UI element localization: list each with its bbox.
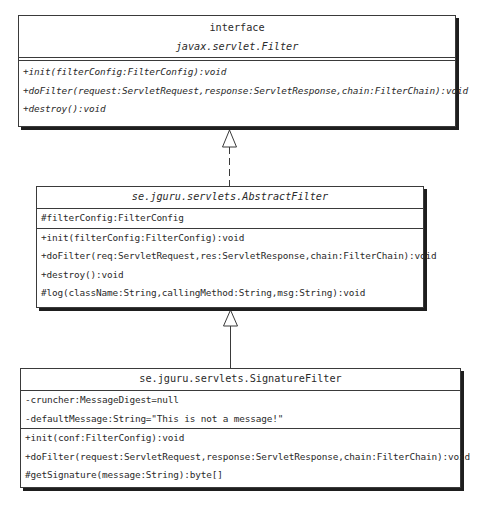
class-header: interface javax.servlet.Filter <box>19 16 455 57</box>
attribute-row: #filterConfig:FilterConfig <box>37 209 423 228</box>
method-row: +init(filterConfig:FilterConfig):void <box>37 229 423 248</box>
attribute-row: -defaultMessage:String="This is not a me… <box>21 410 460 429</box>
method-row: +init(conf:FilterConfig):void <box>21 429 460 448</box>
class-box-filter-interface: interface javax.servlet.Filter +init(fil… <box>18 15 456 127</box>
stereotype-label: interface <box>19 18 455 37</box>
generalization-arrow <box>224 310 238 368</box>
class-name: javax.servlet.Filter <box>19 37 455 56</box>
method-row: #log(className:String,callingMethod:Stri… <box>37 284 423 303</box>
class-name: se.jguru.servlets.AbstractFilter <box>37 187 423 206</box>
methods-compartment: +init(filterConfig:FilterConfig):void +d… <box>37 228 423 303</box>
method-row: +doFilter(req:ServletRequest,res:Servlet… <box>37 247 423 266</box>
realization-arrow <box>223 130 237 186</box>
class-name: se.jguru.servlets.SignatureFilter <box>21 369 460 388</box>
method-row: +doFilter(request:ServletRequest,respons… <box>19 82 455 101</box>
class-header: se.jguru.servlets.SignatureFilter <box>21 369 460 390</box>
methods-compartment: +init(filterConfig:FilterConfig):void +d… <box>19 57 455 119</box>
method-row: +doFilter(request:ServletRequest,respons… <box>21 448 460 467</box>
class-header: se.jguru.servlets.AbstractFilter <box>37 187 423 208</box>
method-row: #getSignature(message:String):byte[] <box>21 466 460 485</box>
method-row: +destroy():void <box>19 100 455 119</box>
method-row: +init(filterConfig:FilterConfig):void <box>19 63 455 82</box>
attribute-row: -cruncher:MessageDigest=null <box>21 391 460 410</box>
method-row: +destroy():void <box>37 266 423 285</box>
attributes-compartment: -cruncher:MessageDigest=null -defaultMes… <box>21 390 460 428</box>
class-box-abstract-filter: se.jguru.servlets.AbstractFilter #filter… <box>36 186 424 308</box>
methods-compartment: +init(conf:FilterConfig):void +doFilter(… <box>21 428 460 485</box>
class-box-signature-filter: se.jguru.servlets.SignatureFilter -crunc… <box>20 368 461 488</box>
attributes-compartment: #filterConfig:FilterConfig <box>37 208 423 228</box>
